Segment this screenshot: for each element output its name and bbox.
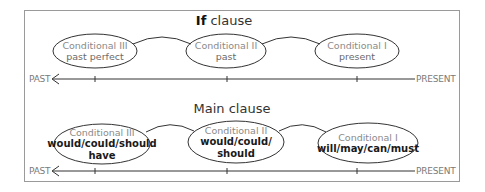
conditional-name: Conditional II: [195, 40, 257, 51]
axis-label-past: PAST: [29, 166, 50, 176]
if-ellipse-label-2: Conditional II past: [195, 40, 257, 62]
conditional-modal: would/could/should: [47, 138, 156, 150]
conditional-tense: past perfect: [62, 51, 127, 62]
timeline-diagram: [0, 0, 485, 192]
conditional-tense: present: [327, 51, 387, 62]
conditional-name: Conditional III: [62, 40, 127, 51]
connector-arc: [133, 37, 191, 44]
conditional-modal: will/may/can/must: [317, 143, 419, 155]
if-clause-title-rest: clause: [210, 13, 252, 28]
main-ellipse-label-1: Conditional III would/could/should have: [47, 127, 156, 161]
connector-arc: [262, 37, 320, 44]
main-ellipse-label-3: Conditional I will/may/can/must: [317, 132, 419, 155]
main-ellipse-label-2: Conditional II would/could/ should: [200, 125, 272, 159]
conditional-name: Conditional I: [327, 40, 387, 51]
conditional-name: Conditional II: [200, 125, 272, 136]
conditional-modal: would/could/: [200, 136, 272, 148]
conditional-modal: have: [47, 150, 156, 162]
if-clause-title: If clause: [196, 13, 252, 28]
if-ellipse-label-1: Conditional III past perfect: [62, 40, 127, 62]
axis-label-present: PRESENT: [416, 166, 456, 176]
main-clause-title: Main clause: [194, 101, 271, 116]
axis-label-present: PRESENT: [416, 74, 456, 84]
if-ellipse-label-3: Conditional I present: [327, 40, 387, 62]
conditional-tense: past: [195, 51, 257, 62]
conditional-modal: should: [200, 148, 272, 160]
axis-label-past: PAST: [29, 74, 50, 84]
if-clause-title-bold: If: [196, 13, 207, 28]
conditional-name: Conditional III: [47, 127, 156, 138]
conditional-name: Conditional I: [317, 132, 419, 143]
